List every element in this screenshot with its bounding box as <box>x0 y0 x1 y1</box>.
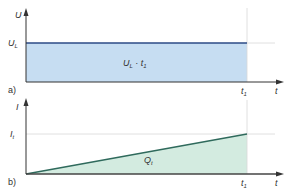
y-axis-arrow-icon <box>24 8 29 16</box>
area-label: UL · t1 <box>123 58 147 69</box>
y-axis-label: U <box>15 10 22 20</box>
x-axis-arrow-icon <box>276 80 284 85</box>
x-tick-t1: t1 <box>241 86 247 97</box>
x-tick-t1: t1 <box>241 178 247 189</box>
diagram-a: U UL UL · t1 t1 t a) <box>8 8 284 97</box>
level-label: UL <box>8 38 18 49</box>
diagram-b: I It Qt t1 t b) <box>8 98 284 189</box>
x-axis-label: t <box>275 86 278 96</box>
level-label: It <box>10 129 15 140</box>
x-axis-label: t <box>275 178 278 188</box>
y-axis-label: I <box>16 102 19 112</box>
panel-label: a) <box>8 85 16 95</box>
y-axis-arrow-icon <box>24 98 29 106</box>
panel-label: b) <box>8 177 16 187</box>
x-axis-arrow-icon <box>276 172 284 177</box>
charge-diagram: U UL UL · t1 t1 t a) I It Qt t1 t b) <box>0 0 291 196</box>
